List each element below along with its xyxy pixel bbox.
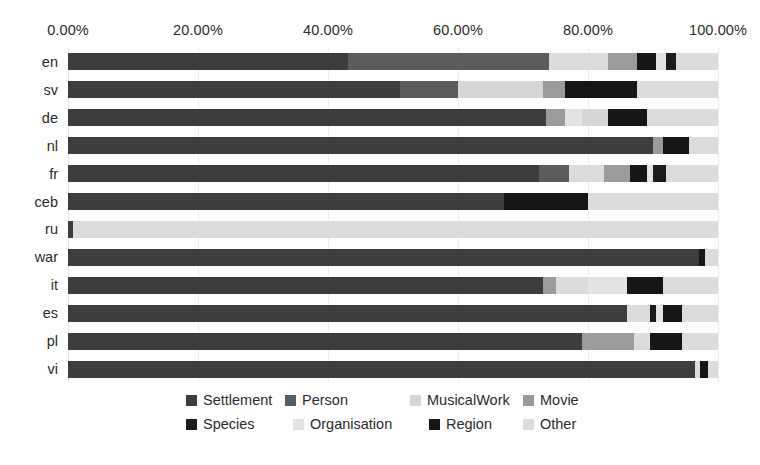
bar-segment — [582, 333, 634, 350]
legend-item-species[interactable]: Species — [186, 417, 255, 432]
legend-item-person[interactable]: Person — [285, 393, 348, 408]
x-tick-label: 100.00% — [689, 22, 747, 38]
bar-segment — [637, 53, 657, 70]
bar-segment — [504, 193, 589, 210]
bar-segment — [68, 109, 546, 126]
bar-segment — [565, 81, 637, 98]
legend-row: SettlementPersonMusicalWorkMovie — [0, 392, 760, 416]
y-category-label: it — [0, 277, 58, 293]
y-category-label: ru — [0, 221, 58, 237]
y-category-label: nl — [0, 138, 58, 154]
bar-row — [68, 305, 718, 322]
bar-segment — [650, 333, 683, 350]
y-category-label: pl — [0, 333, 58, 349]
bar-row — [68, 249, 718, 266]
legend-item-organisation[interactable]: Organisation — [293, 417, 392, 432]
bar-segment — [543, 81, 566, 98]
bar-segment — [348, 53, 550, 70]
legend-item-other[interactable]: Other — [523, 417, 576, 432]
bar-segment — [569, 165, 605, 182]
legend-label: Other — [540, 417, 576, 432]
bar-row — [68, 53, 718, 70]
bar-segment — [458, 81, 543, 98]
bar-segment — [582, 109, 608, 126]
bar-segment — [73, 221, 718, 238]
bar-row — [68, 165, 718, 182]
bar-segment — [68, 53, 348, 70]
x-tick-label: 20.00% — [173, 22, 223, 38]
y-category-label: sv — [0, 82, 58, 98]
legend-swatch-icon — [429, 419, 440, 430]
bar-row — [68, 277, 718, 294]
bar-row — [68, 137, 718, 154]
legend-item-movie[interactable]: Movie — [523, 393, 579, 408]
bar-segment — [68, 277, 543, 294]
bar-row — [68, 333, 718, 350]
x-axis-tick-labels: 0.00%20.00%40.00%60.00%80.00%100.00% — [0, 22, 760, 44]
bar-segment — [666, 53, 676, 70]
gridline — [718, 48, 719, 383]
bar-row — [68, 81, 718, 98]
y-category-label: en — [0, 54, 58, 70]
bar-segment — [68, 137, 653, 154]
y-category-label: es — [0, 305, 58, 321]
bar-segment — [68, 249, 699, 266]
bar-segment — [565, 109, 581, 126]
bar-segment — [708, 361, 718, 378]
bar-segment — [68, 165, 539, 182]
bar-segment — [666, 165, 718, 182]
bar-segment — [604, 165, 630, 182]
bar-segment — [608, 109, 647, 126]
bar-segment — [627, 277, 663, 294]
legend-swatch-icon — [285, 395, 296, 406]
x-tick-label: 40.00% — [303, 22, 353, 38]
stacked-bar-chart: 0.00%20.00%40.00%60.00%80.00%100.00% ens… — [0, 0, 760, 465]
plot-area — [68, 48, 718, 383]
bar-segment — [653, 165, 666, 182]
legend-label: Settlement — [203, 393, 272, 408]
bar-segment — [634, 333, 650, 350]
bar-row — [68, 109, 718, 126]
bar-segment — [663, 277, 718, 294]
bar-segment — [663, 137, 689, 154]
bar-segment — [653, 137, 663, 154]
bar-row — [68, 193, 718, 210]
bar-row — [68, 221, 718, 238]
bar-segment — [700, 361, 708, 378]
bar-segment — [539, 165, 568, 182]
bar-segment — [705, 249, 718, 266]
bar-segment — [637, 81, 718, 98]
legend-swatch-icon — [293, 419, 304, 430]
legend-label: MusicalWork — [427, 393, 510, 408]
bar-segment — [676, 53, 718, 70]
legend-label: Species — [203, 417, 255, 432]
bar-segment — [68, 361, 695, 378]
x-tick-label: 80.00% — [563, 22, 613, 38]
bar-segment — [689, 137, 718, 154]
legend-swatch-icon — [523, 395, 534, 406]
bar-segment — [400, 81, 459, 98]
bar-segment — [68, 305, 627, 322]
legend-label: Person — [302, 393, 348, 408]
bar-row — [68, 361, 718, 378]
bar-segment — [627, 305, 650, 322]
legend-item-settlement[interactable]: Settlement — [186, 393, 272, 408]
legend-label: Organisation — [310, 417, 392, 432]
legend-label: Region — [446, 417, 492, 432]
bar-segment — [588, 277, 627, 294]
bar-segment — [682, 305, 718, 322]
legend-swatch-icon — [186, 419, 197, 430]
legend-row: SpeciesOrganisationRegionOther — [0, 416, 760, 440]
y-category-label: ceb — [0, 194, 58, 210]
x-tick-label: 0.00% — [47, 22, 89, 38]
bar-segment — [68, 333, 582, 350]
bar-segment — [608, 53, 637, 70]
bar-segment — [630, 165, 646, 182]
legend-item-musicalwork[interactable]: MusicalWork — [410, 393, 510, 408]
legend-item-region[interactable]: Region — [429, 417, 492, 432]
bar-segment — [647, 109, 719, 126]
chart-legend: SettlementPersonMusicalWorkMovieSpeciesO… — [0, 392, 760, 440]
legend-swatch-icon — [186, 395, 197, 406]
bar-segment — [682, 333, 718, 350]
bar-segment — [656, 53, 666, 70]
